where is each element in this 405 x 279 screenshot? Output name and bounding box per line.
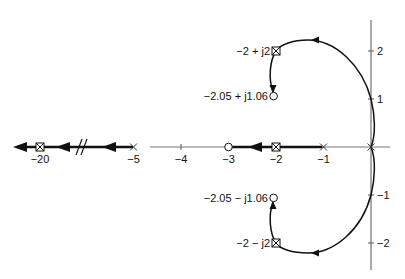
- real-tick-label: −1: [317, 153, 330, 165]
- pole-boxed-x-icon: [36, 143, 44, 151]
- real-tick-label: −3: [222, 153, 235, 165]
- arrow-left-3: [102, 142, 116, 152]
- imag-tick-label: −2: [377, 237, 390, 249]
- arrow-lower-inner: [270, 201, 277, 209]
- root-locus-diagram: 21−1−2 −20−5−4−3−2−1 −2 + j2 −2.05 + j1.…: [0, 0, 405, 279]
- pole-label-upper: −2 + j2: [236, 45, 270, 57]
- arrow-left-2: [56, 142, 70, 152]
- pole-boxed-x-icon: [272, 239, 280, 247]
- pole-boxed-x-icon: [272, 47, 280, 55]
- zero-label-lower: −2.05 − j1.06: [204, 192, 268, 204]
- zero-circle-icon: [270, 194, 278, 202]
- arrow-mid: [248, 142, 262, 152]
- real-tick-label: −4: [175, 153, 188, 165]
- imag-tick-label: 2: [377, 45, 383, 57]
- arrow-left-tip: [13, 142, 27, 152]
- locus-branch-upper: [276, 40, 374, 147]
- pole-boxed-x-icon: [272, 143, 280, 151]
- arrow-lower-arc: [311, 250, 319, 257]
- zero-label-upper: −2.05 + j1.06: [204, 90, 268, 102]
- zero-circle-icon: [225, 143, 233, 151]
- real-tick-label: −2: [270, 153, 283, 165]
- real-tick-label: −5: [127, 153, 140, 165]
- arrow-upper-arc: [311, 37, 319, 44]
- zero-circle-icon: [270, 92, 278, 100]
- real-tick-label: −20: [31, 153, 50, 165]
- imag-tick-label: −1: [377, 189, 390, 201]
- pole-label-lower: −2 − j2: [236, 237, 270, 249]
- imag-tick-label: 1: [377, 93, 383, 105]
- arrow-upper-inner: [270, 85, 277, 93]
